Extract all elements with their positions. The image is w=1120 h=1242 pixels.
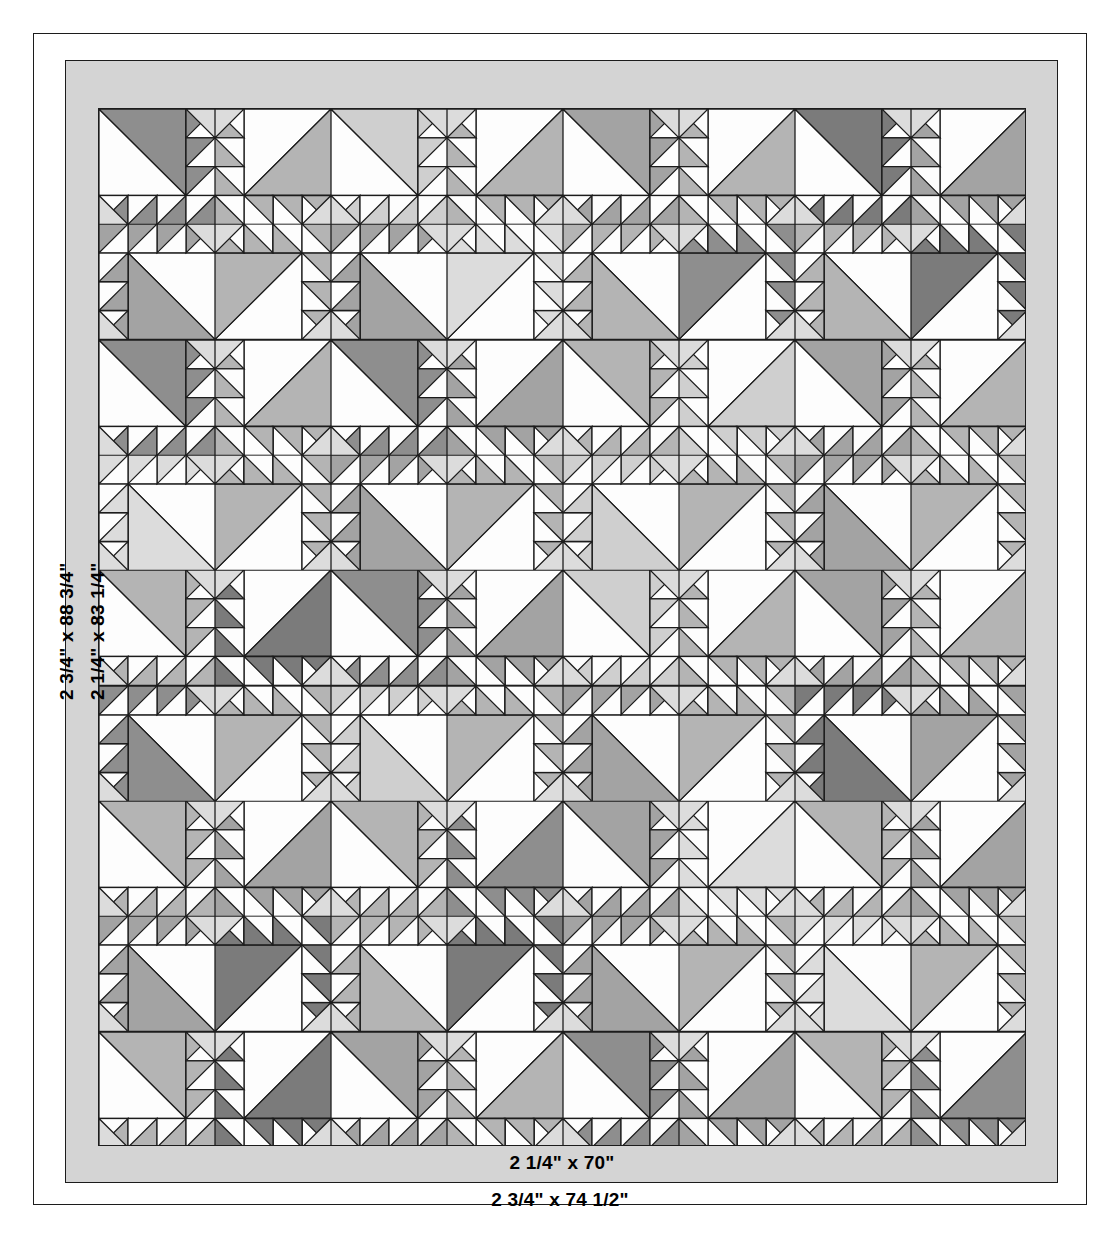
quilt-block (331, 455, 447, 570)
quilt-block (99, 224, 215, 339)
quilt-block (447, 224, 563, 339)
quilt-block (563, 109, 679, 224)
quilt-block (331, 109, 447, 224)
quilt-block (679, 801, 795, 916)
quilt-block (99, 916, 215, 1031)
quilt-block (563, 1032, 679, 1146)
quilt-block (447, 1032, 563, 1146)
quilt-block (447, 801, 563, 916)
quilt-block (99, 109, 215, 224)
quilt-block (215, 455, 331, 570)
quilt-block (911, 686, 1026, 801)
quilt-block (911, 916, 1026, 1031)
quilt-block (563, 916, 679, 1031)
quilt-block (447, 916, 563, 1031)
quilt-block (911, 109, 1026, 224)
quilt-block (215, 570, 331, 685)
quilt-block (215, 916, 331, 1031)
quilt-block (331, 340, 447, 455)
quilt-block (563, 340, 679, 455)
quilt-block (99, 570, 215, 685)
quilt-block (447, 570, 563, 685)
quilt-block (563, 570, 679, 685)
quilt-block (215, 224, 331, 339)
quilt-block (563, 455, 679, 570)
quilt-block (447, 340, 563, 455)
quilt-block (795, 1032, 911, 1146)
quilt-block (215, 1032, 331, 1146)
quilt-block (911, 224, 1026, 339)
quilt-block (795, 455, 911, 570)
quilt-block (795, 686, 911, 801)
inner-border-bottom-label: 2 1/4" x 70" (98, 1153, 1026, 1172)
quilt-block (911, 570, 1026, 685)
quilt-block (911, 455, 1026, 570)
quilt-block (215, 801, 331, 916)
quilt-block (795, 801, 911, 916)
quilt-block (99, 340, 215, 455)
quilt-block (563, 801, 679, 916)
quilt-block (679, 916, 795, 1031)
quilt-field (98, 108, 1026, 1146)
quilt-block (331, 570, 447, 685)
quilt-block (679, 686, 795, 801)
quilt-block (679, 1032, 795, 1146)
quilt-block (331, 801, 447, 916)
quilt-block (215, 109, 331, 224)
quilt-block (215, 686, 331, 801)
quilt-block (679, 340, 795, 455)
quilt-block (563, 224, 679, 339)
quilt-block (99, 455, 215, 570)
quilt-block (911, 801, 1026, 916)
quilt-block (795, 340, 911, 455)
quilt-block (795, 570, 911, 685)
outer-border-bottom-label: 2 3/4" x 74 1/2" (33, 1190, 1087, 1209)
quilt-block (679, 109, 795, 224)
quilt-block (679, 455, 795, 570)
quilt-block (795, 224, 911, 339)
inner-border-left-label: 2 1/4" x 83 1/4" (88, 563, 107, 700)
quilt-block (331, 686, 447, 801)
quilt-block (795, 109, 911, 224)
quilt-block (447, 686, 563, 801)
quilt-block (331, 224, 447, 339)
quilt-block (447, 109, 563, 224)
quilt-block (215, 340, 331, 455)
quilt-block (911, 340, 1026, 455)
quilt-block (99, 801, 215, 916)
quilt-block (331, 1032, 447, 1146)
quilt-block (911, 1032, 1026, 1146)
quilt-block (679, 570, 795, 685)
quilt-block (447, 455, 563, 570)
quilt-block (679, 224, 795, 339)
quilt-block (331, 916, 447, 1031)
quilt-block (99, 686, 215, 801)
outer-border-left-label: 2 3/4" x 88 3/4" (57, 563, 76, 700)
quilt-block (99, 1032, 215, 1146)
quilt-block (795, 916, 911, 1031)
quilt-block (563, 686, 679, 801)
quilt-diagram: 2 3/4" x 88 3/4" 2 1/4" x 83 1/4" 2 1/4"… (0, 0, 1120, 1242)
